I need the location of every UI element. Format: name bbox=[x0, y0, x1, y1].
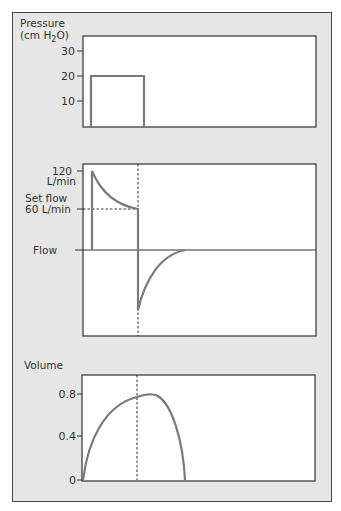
pressure-plot-area bbox=[83, 36, 316, 127]
ventilator-waveforms: Pressure (cm H2O) 30 20 10 120 L/min Set… bbox=[0, 0, 341, 511]
pressure-panel: Pressure (cm H2O) 30 20 10 bbox=[20, 17, 316, 127]
volume-tick-0: 0 bbox=[69, 474, 76, 487]
volume-plot-area bbox=[82, 375, 315, 481]
volume-tick-0-4: 0.4 bbox=[59, 430, 77, 443]
flow-baseline-label: Flow bbox=[33, 244, 57, 256]
volume-label: Volume bbox=[24, 359, 63, 371]
pressure-tick-10: 10 bbox=[61, 95, 75, 108]
pressure-label: Pressure bbox=[20, 17, 65, 29]
flow-panel: 120 L/min Set flow 60 L/min Flow bbox=[25, 164, 316, 336]
pressure-tick-30: 30 bbox=[61, 45, 75, 58]
volume-tick-0-8: 0.8 bbox=[59, 388, 77, 401]
volume-panel: Volume 0.8 0.4 0 bbox=[24, 359, 315, 487]
set-flow-value: 60 L/min bbox=[25, 203, 71, 215]
pressure-units: (cm H2O) bbox=[20, 29, 69, 44]
flow-tick-120-units: L/min bbox=[47, 175, 76, 187]
pressure-tick-20: 20 bbox=[61, 70, 75, 83]
